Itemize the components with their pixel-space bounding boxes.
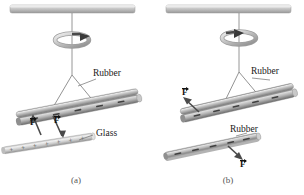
handheld-glass-rod: + + + + + + + [1,133,96,156]
force-label-lower: F [240,159,246,169]
force-label-upper: F [182,87,188,97]
force-label-right: F [54,115,60,125]
suspended-rubber-rod [178,82,298,123]
force-label-left: F [30,117,36,127]
physics-figure: + + + + + + + [0,0,304,195]
panel-b-graphics [152,0,304,195]
force-arrow-lower [228,146,243,160]
glass-label: Glass [96,128,117,138]
vector-arrow-bar [240,160,246,161]
vector-arrow-bar [182,88,188,89]
vector-arrow-bar [54,116,60,117]
panel-a-caption: (a) [0,175,152,185]
vector-arrow-bar [30,118,36,119]
panel-b-caption: (b) [152,175,304,185]
handheld-rubber-rod [163,132,262,161]
ceiling-support-bar [10,5,135,13]
panel-a-graphics: + + + + + + + [0,0,152,195]
rotation-swivel [55,33,90,47]
panel-a: + + + + + + + [0,0,152,195]
rubber-label-top: Rubber [251,66,279,76]
rubber-top-leader-line [252,78,270,80]
rubber-label: Rubber [93,68,121,78]
rubber-leader-line [78,79,96,86]
panel-b: Rubber Rubber F F (b) [152,0,304,195]
ceiling-support-bar [166,5,291,13]
rubber-label-bottom: Rubber [230,124,258,134]
